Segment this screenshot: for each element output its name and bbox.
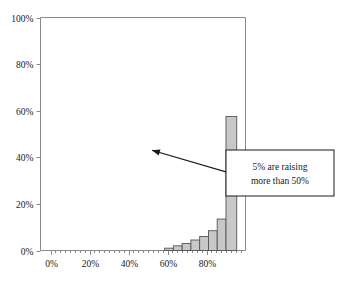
histogram-bar xyxy=(165,248,174,250)
plot-background xyxy=(40,17,246,250)
y-tick-label: 20% xyxy=(16,200,34,210)
chart-canvas: 0%20%40%60%80%100% 0%20%40%60%80% 5% are… xyxy=(0,0,340,288)
callout-box-frame xyxy=(226,150,334,196)
histogram-bar xyxy=(173,246,182,251)
y-axis-tick-labels: 0%20%40%60%80%100% xyxy=(11,14,33,257)
y-tick-label: 40% xyxy=(16,153,34,163)
histogram-bar xyxy=(182,244,191,251)
x-axis-major-ticks xyxy=(52,251,208,256)
callout-line-1: 5% are raising xyxy=(253,162,308,172)
x-axis-tick-labels: 0%20%40%60%80% xyxy=(45,259,216,269)
y-tick-label: 80% xyxy=(16,60,34,70)
y-axis-ticks xyxy=(37,19,41,252)
y-tick-label: 0% xyxy=(21,247,34,257)
x-tick-label: 40% xyxy=(121,259,139,269)
y-tick-label: 100% xyxy=(11,14,33,24)
histogram-bar xyxy=(200,237,209,251)
histogram-bar xyxy=(208,231,217,251)
histogram-chart: 0%20%40%60%80%100% 0%20%40%60%80% 5% are… xyxy=(0,0,340,288)
histogram-bar xyxy=(217,219,226,250)
histogram-bar xyxy=(191,240,200,250)
x-tick-label: 80% xyxy=(199,259,217,269)
x-tick-label: 60% xyxy=(160,259,178,269)
y-tick-label: 60% xyxy=(16,107,34,117)
callout-box: 5% are raising more than 50% xyxy=(226,150,334,196)
callout-line-2: more than 50% xyxy=(251,176,309,186)
x-tick-label: 20% xyxy=(82,259,100,269)
x-tick-label: 0% xyxy=(45,259,58,269)
